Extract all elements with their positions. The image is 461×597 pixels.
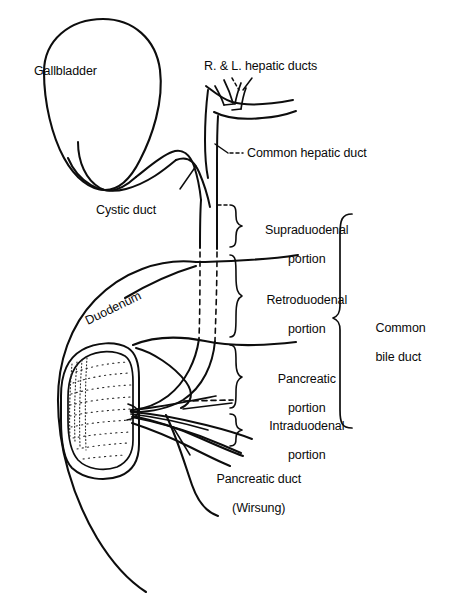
label-intraduodenal-line1: Intraduodenal xyxy=(269,419,344,433)
label-pancreatic-duct-line2: (Wirsung) xyxy=(232,501,285,515)
anatomy-figure: Gallbladder R. & L. hepatic ducts Common… xyxy=(0,0,461,597)
label-gallbladder: Gallbladder xyxy=(34,64,97,79)
bracket-supraduodenal xyxy=(218,205,242,247)
label-common-bile-duct: Common bile duct xyxy=(362,306,426,379)
label-common-hepatic-duct: Common hepatic duct xyxy=(247,146,367,161)
leader-cystic-duct xyxy=(180,166,196,189)
label-common-bile-duct-line1: Common xyxy=(376,321,426,335)
gallbladder-shape xyxy=(44,19,161,190)
label-retroduodenal-line1: Retroduodenal xyxy=(266,293,347,307)
common-hepatic-duct-shape xyxy=(205,90,218,196)
label-common-bile-duct-line2: bile duct xyxy=(376,350,422,364)
cystic-duct-shape xyxy=(136,151,210,207)
label-supraduodenal-portion: Supraduodenal portion xyxy=(248,208,352,281)
label-retroduodenal-line2: portion xyxy=(288,322,326,336)
label-retroduodenal-portion: Retroduodenal portion xyxy=(248,278,352,351)
mucosal-folds xyxy=(70,362,131,459)
bracket-retroduodenal xyxy=(230,255,242,337)
leader-intraduodenal xyxy=(183,403,232,409)
label-hepatic-ducts: R. & L. hepatic ducts xyxy=(204,59,317,74)
bracket-pancreatic xyxy=(230,345,242,408)
leader-common-hepatic-duct xyxy=(215,144,243,153)
label-pancreatic-duct: Pancreatic duct (Wirsung) xyxy=(186,457,318,530)
leader-hepatic-ducts xyxy=(232,78,252,90)
duodenal-lumen xyxy=(61,343,139,479)
bracket-intraduodenal xyxy=(230,414,242,446)
label-cystic-duct: Cystic duct xyxy=(96,203,156,218)
common-bile-duct-retroduodenal xyxy=(199,252,217,340)
label-pancreatic-duct-line1: Pancreatic duct xyxy=(216,472,301,486)
hepatic-ducts-shape xyxy=(206,80,296,119)
label-supraduodenal-line2: portion xyxy=(288,252,326,266)
label-pancreatic-portion-line1: Pancreatic xyxy=(278,372,336,386)
label-supraduodenal-line1: Supraduodenal xyxy=(265,223,349,237)
